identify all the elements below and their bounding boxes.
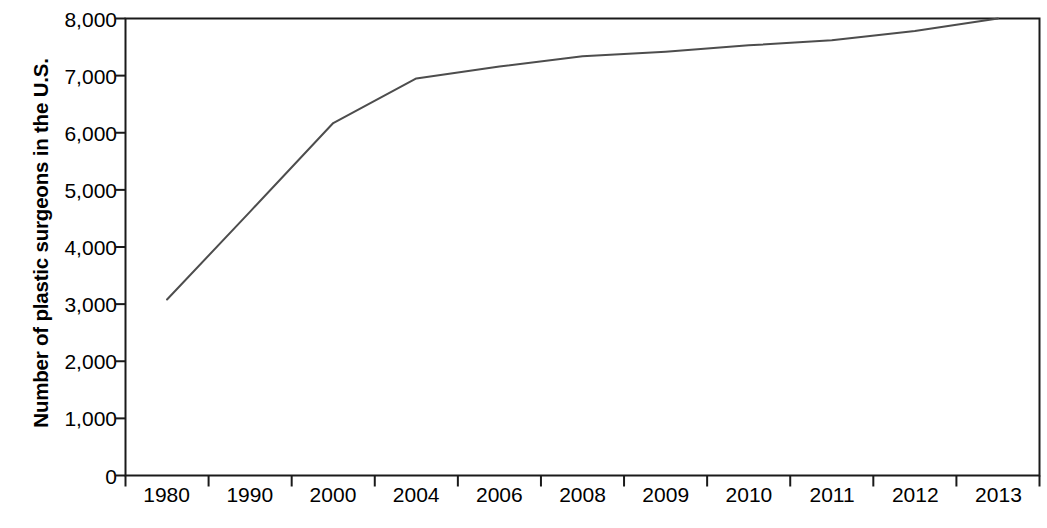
y-axis-ticks xyxy=(116,19,126,476)
x-tick-label: 2006 xyxy=(458,478,541,512)
x-tick-label: 2012 xyxy=(874,478,957,512)
x-tick-label: 2013 xyxy=(957,478,1040,512)
plot-frame xyxy=(126,19,1040,476)
x-tick-label: 2000 xyxy=(291,478,374,512)
x-tick-label: 1990 xyxy=(208,478,291,512)
x-tick-label: 2009 xyxy=(624,478,707,512)
chart-figure: Number of plastic surgeons in the U.S. 8… xyxy=(0,0,1047,528)
x-tick-label: 2011 xyxy=(791,478,874,512)
plot-area xyxy=(0,0,1047,528)
x-axis-tick-labels: 1980199020002004200620082009201020112012… xyxy=(125,478,1040,512)
x-tick-label: 2004 xyxy=(375,478,458,512)
x-tick-label: 2008 xyxy=(541,478,624,512)
x-tick-label: 1980 xyxy=(125,478,208,512)
x-tick-label: 2010 xyxy=(707,478,790,512)
